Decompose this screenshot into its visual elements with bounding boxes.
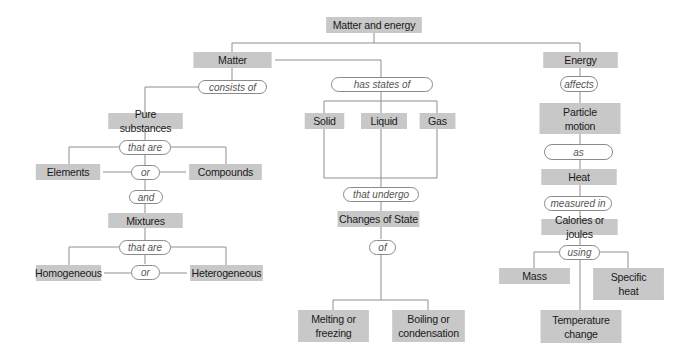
node-changes-of-state: Changes of State [338,211,420,227]
node-pure-substances: Pure substances [108,113,183,129]
node-mass: Mass [499,268,570,284]
link-of: of [369,240,396,255]
node-matter: Matter [193,52,271,68]
node-heat: Heat [541,169,616,185]
node-calories-or-joules: Calories or joules [541,219,617,235]
node-compounds: Compounds [189,164,262,180]
node-boiling-or-condensation: Boiling or condensation [392,310,465,342]
link-and: and [129,190,163,204]
node-gas: Gas [420,113,456,129]
link-using: using [559,245,600,260]
node-solid: Solid [305,113,345,129]
node-homogeneous: Homogeneous [36,265,101,281]
link-that-are-2: that are [119,240,171,255]
node-matter-and-energy: Matter and energy [326,17,422,33]
concept-map: Matter and energy Matter Energy consists… [0,0,698,361]
link-affects: affects [560,76,598,92]
node-liquid: Liquid [361,113,407,129]
node-temperature-change: Temperature change [541,310,622,343]
node-particle-motion: Particle motion [540,103,621,134]
link-has-states-of: has states of [331,77,433,92]
link-as: as [544,144,613,160]
link-or-2: or [131,265,160,280]
link-that-undergo: that undergo [343,187,419,202]
link-consists-of: consists of [198,80,267,94]
node-elements: Elements [36,164,100,180]
node-mixtures: Mixtures [108,213,183,228]
link-that-are-1: that are [119,140,171,155]
node-melting-or-freezing: Melting or freezing [298,310,369,342]
link-or-1: or [131,165,160,180]
node-specific-heat: Specific heat [593,268,664,300]
link-measured-in: measured in [544,196,612,211]
node-heterogeneous: Heterogeneous [190,265,263,281]
node-energy: Energy [543,52,618,68]
